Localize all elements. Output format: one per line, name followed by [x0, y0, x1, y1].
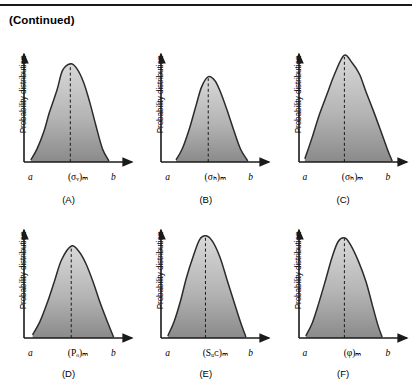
mode-label-d: (Pₒ)ₘ: [48, 347, 108, 358]
x-end-label-e: b: [248, 348, 253, 358]
x-end-label-b: b: [248, 172, 253, 182]
panel-d: Probability distribution a b (Pₒ)ₘ (D): [0, 220, 137, 387]
x-start-label-d: a: [28, 348, 33, 358]
mode-label-c: (σₕ)ₘ: [323, 171, 383, 182]
x-start-label-e: a: [165, 348, 170, 358]
plot-area-d: Probability distribution a b (Pₒ)ₘ: [8, 220, 136, 370]
panel-letter-d: (D): [0, 368, 137, 379]
x-start-label-f: a: [303, 348, 308, 358]
mode-label-e: (Sᵤᴄ)ₘ: [185, 347, 245, 358]
panel-b: Probability distribution a b (σₕ)ₘ (B): [137, 44, 274, 220]
x-end-label-a: b: [111, 172, 116, 182]
mode-label-b: (σₕ)ₘ: [185, 171, 245, 182]
plot-area-f: Probability distribution a b (φ)ₘ: [283, 220, 411, 370]
x-end-label-f: b: [386, 348, 391, 358]
panel-f: Probability distribution a b (φ)ₘ (F): [275, 220, 412, 387]
distribution-curve-f: [297, 220, 412, 358]
mode-label-a: (σᵥ)ₘ: [48, 171, 108, 182]
distribution-curve-b: [159, 44, 277, 182]
mode-label-f: (φ)ₘ: [323, 347, 383, 358]
panel-letter-e: (E): [137, 368, 274, 379]
plot-area-b: Probability distribution a b (σₕ)ₘ: [145, 44, 273, 194]
distribution-curve-a: [22, 44, 140, 182]
x-start-label-b: a: [165, 172, 170, 182]
panel-letter-b: (B): [137, 194, 274, 205]
distribution-curve-e: [159, 220, 277, 358]
top-divider: [0, 4, 412, 6]
x-start-label-c: a: [303, 172, 308, 182]
panel-letter-a: (A): [0, 194, 137, 205]
plot-area-a: Probability distribution a b (σᵥ)ₘ: [8, 44, 136, 194]
plot-area-e: Probability distribution a b (Sᵤᴄ)ₘ: [145, 220, 273, 370]
x-end-label-d: b: [111, 348, 116, 358]
panel-c: Probability distribution a b (σₕ)ₘ (C): [275, 44, 412, 220]
x-end-label-c: b: [386, 172, 391, 182]
panel-a: Probability distribution a b (σᵥ)ₘ (A): [0, 44, 137, 220]
distribution-curve-d: [22, 220, 140, 358]
x-start-label-a: a: [28, 172, 33, 182]
panel-letter-f: (F): [275, 368, 412, 379]
panel-letter-c: (C): [275, 194, 412, 205]
plot-area-c: Probability distribution a b (σₕ)ₘ: [283, 44, 411, 194]
continued-label: (Continued): [9, 14, 75, 26]
distribution-curve-c: [297, 44, 412, 182]
figure-panel-grid: Probability distribution a b (σᵥ)ₘ (A) P…: [0, 44, 412, 387]
panel-e: Probability distribution a b (Sᵤᴄ)ₘ (E): [137, 220, 274, 387]
